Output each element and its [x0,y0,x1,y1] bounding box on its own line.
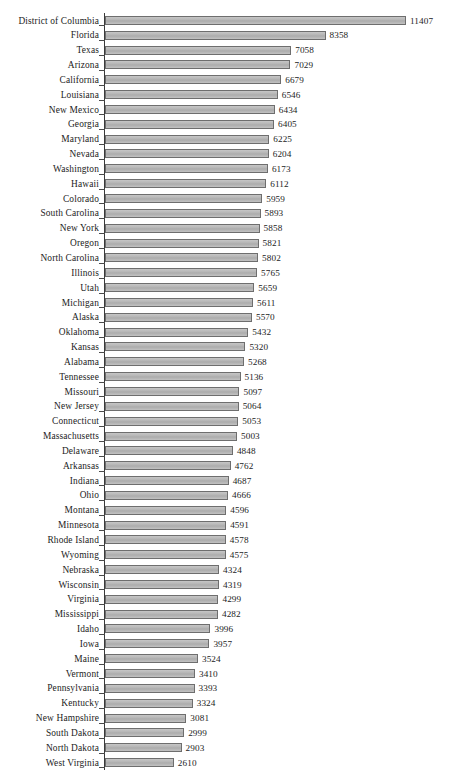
value-label: 5097 [243,385,262,400]
axis-tick [99,545,105,546]
axis-tick [99,589,105,590]
category-label: Louisiana [0,88,99,103]
bar-row: Wisconsin4319 [0,577,451,592]
axis-tick [99,708,105,709]
value-label: 5659 [258,281,277,296]
category-label: Oklahoma [0,325,99,340]
value-label: 5136 [245,370,264,385]
category-label: Tennessee [0,370,99,385]
axis-tick [99,85,105,86]
bar [105,669,195,678]
category-label: Pennsylvania [0,681,99,696]
axis-tick [99,471,105,472]
bar-row: Washington6173 [0,161,451,176]
bar-row: Missouri5097 [0,384,451,399]
bar [105,610,218,619]
value-label: 6546 [282,88,301,103]
bar-row: Texas7058 [0,43,451,58]
value-label: 4666 [232,488,251,503]
bar [105,105,275,114]
axis-tick [99,767,105,768]
value-label: 4848 [237,444,256,459]
bar [105,31,326,40]
bar-row: California6679 [0,72,451,87]
axis-tick [99,456,105,457]
bar-row: Rhode Island4578 [0,533,451,548]
value-label: 4319 [223,578,242,593]
axis-tick [99,248,105,249]
category-label: New Jersey [0,399,99,414]
value-label: 5802 [262,251,281,266]
bar [105,342,245,351]
bar [105,194,262,203]
bar-row: Pennsylvania3393 [0,681,451,696]
category-label: North Carolina [0,251,99,266]
axis-tick [99,25,105,26]
bar-row: Mississippi4282 [0,607,451,622]
axis-tick [99,485,105,486]
bar [105,313,252,322]
value-label: 2903 [186,741,205,756]
category-label: Maryland [0,132,99,147]
bar-row: Maryland6225 [0,132,451,147]
bar-row: Kentucky3324 [0,696,451,711]
bar-row: North Dakota2903 [0,740,451,755]
bar [105,328,248,337]
bar-row: Alaska5570 [0,310,451,325]
value-label: 4596 [230,503,249,518]
axis-tick [99,753,105,754]
bar [105,535,226,544]
bar [105,120,274,129]
bar [105,491,228,500]
axis-tick [99,693,105,694]
category-label: Ohio [0,488,99,503]
bar [105,164,268,173]
value-label: 7058 [295,43,314,58]
axis-tick [99,40,105,41]
axis-tick [99,278,105,279]
bar-row: Massachusetts5003 [0,429,451,444]
bar [105,476,229,485]
bar [105,239,259,248]
value-label: 3393 [199,681,218,696]
bar-row: Delaware4848 [0,443,451,458]
axis-tick [99,738,105,739]
value-label: 6679 [285,73,304,88]
category-label: District of Columbia [0,14,99,29]
value-label: 2610 [178,756,197,771]
bar [105,714,186,723]
bar [105,75,281,84]
bar [105,179,266,188]
axis-tick [99,174,105,175]
value-label: 5893 [265,206,284,221]
bar-row: Louisiana6546 [0,87,451,102]
bar [105,417,238,426]
value-label: 5268 [248,355,267,370]
bar-row: New Mexico6434 [0,102,451,117]
value-label: 11407 [410,14,433,29]
axis-tick [99,649,105,650]
bar-row: Illinois5765 [0,265,451,280]
category-label: Mississippi [0,607,99,622]
category-label: Vermont [0,667,99,682]
value-label: 4324 [223,563,242,578]
bar-row: Alabama5268 [0,354,451,369]
category-label: Washington [0,162,99,177]
bar-row: Arizona7029 [0,58,451,73]
value-label: 3081 [190,711,209,726]
bar-row: New Hampshire3081 [0,711,451,726]
category-label: Missouri [0,385,99,400]
axis-tick [99,189,105,190]
category-label: Wyoming [0,548,99,563]
category-label: South Dakota [0,726,99,741]
bar-row: New Jersey5064 [0,399,451,414]
bar-row: Indiana4687 [0,473,451,488]
bar [105,135,269,144]
axis-tick [99,441,105,442]
bar-row: Virginia4299 [0,592,451,607]
bar [105,253,258,262]
bar [105,268,257,277]
bar [105,372,241,381]
bar-row: Hawaii6112 [0,176,451,191]
value-label: 3524 [202,652,221,667]
